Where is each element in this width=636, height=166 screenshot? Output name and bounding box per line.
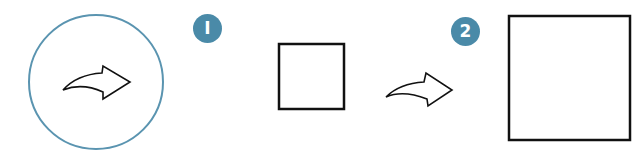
redo-circle-icon — [29, 15, 163, 149]
large-square — [509, 16, 630, 140]
curved-arrow-icon — [386, 73, 452, 106]
step-badge-1: I — [193, 14, 222, 43]
curved-arrow-icon — [63, 66, 130, 99]
small-square — [279, 44, 344, 109]
step-number-1: I — [204, 18, 210, 38]
diagram-canvas: I 2 — [0, 0, 636, 166]
step-number-2: 2 — [460, 21, 472, 41]
diagram-svg — [0, 0, 636, 166]
step-badge-2: 2 — [451, 17, 480, 46]
